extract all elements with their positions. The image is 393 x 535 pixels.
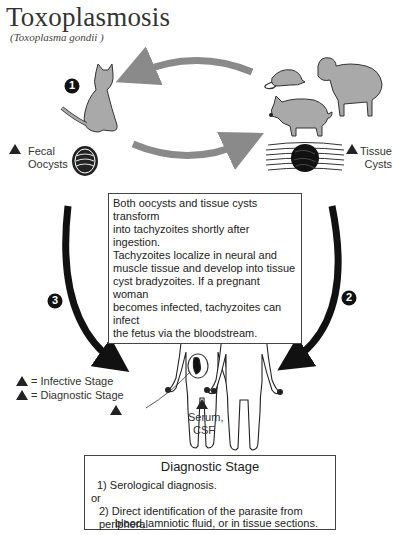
- diagnostic-heading: Diagnostic Stage: [85, 460, 335, 473]
- fecal-oocysts-label: Fecal Oocysts: [28, 145, 68, 171]
- step-1-number: 1: [68, 79, 76, 91]
- infective-marker-tissue: [346, 144, 358, 154]
- sheep-icon: [318, 58, 382, 116]
- tissue-cysts-label: Tissue Cysts: [360, 145, 392, 171]
- diagnostic-box: Diagnostic Stage 1) Serological diagnosi…: [84, 455, 336, 530]
- tissue-cyst-icon: [266, 143, 344, 173]
- legend-diagnostic-label: = Diagnostic Stage: [31, 389, 124, 402]
- diagnostic-item-1: 1) Serological diagnosis.: [97, 479, 217, 492]
- step-3-number: 3: [51, 294, 59, 306]
- pig-icon: [269, 96, 332, 136]
- arrow-to-cat: [135, 60, 252, 74]
- oocyst-icon: [72, 146, 98, 176]
- diagnostic-marker-placenta: [110, 405, 122, 415]
- cat-icon: [62, 64, 117, 132]
- hands: [165, 387, 283, 395]
- diagnostic-item-2-line-2: blood, amniotic fluid, or in tissue sect…: [115, 517, 318, 530]
- legend-infective-icon: [16, 376, 28, 386]
- legend-infective-label: = Infective Stage: [31, 375, 113, 388]
- diagnostic-or: or: [91, 492, 101, 505]
- serum-csf-label: Serum, CSF: [188, 411, 220, 437]
- arrow-to-animals: [133, 142, 245, 156]
- step-2-number: 2: [345, 291, 353, 303]
- legend-diagnostic-icon: [16, 390, 28, 400]
- info-box: Both oocysts and tissue cysts transform …: [108, 193, 302, 344]
- infective-marker-fecal: [9, 144, 21, 154]
- rat-icon: [265, 70, 305, 89]
